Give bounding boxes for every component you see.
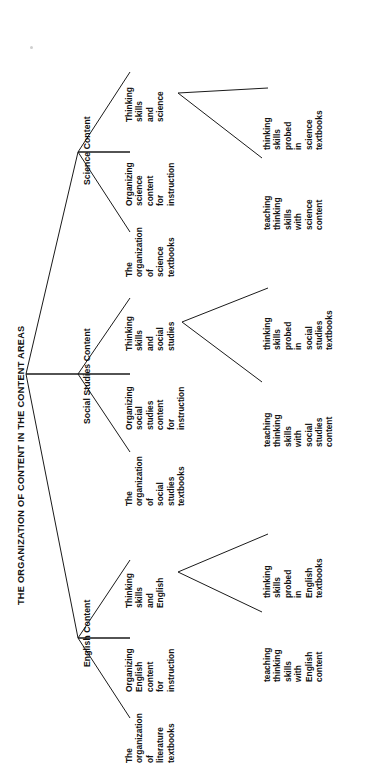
node-line: teaching [262, 437, 272, 447]
node-science-organizing-content[interactable]: Organizing science content for instructi… [134, 196, 186, 206]
node-line: thinking [262, 588, 272, 598]
node-line: instruction [166, 682, 176, 692]
node-line: in [293, 140, 303, 150]
link-social-teaching [182, 322, 262, 382]
node-line: textbooks [166, 753, 176, 763]
node-line: textbooks [166, 267, 176, 277]
node-line: English [155, 598, 165, 608]
node-social-studies-content[interactable]: Social Studies Content [82, 328, 92, 424]
node-line: of [145, 496, 155, 506]
node-line: textbooks [176, 496, 186, 506]
node-line: thinking [262, 340, 272, 350]
link-social-probed [182, 288, 268, 322]
node-line: thinking [272, 437, 282, 447]
node-line: science [304, 140, 314, 150]
node-line: thinking [272, 220, 282, 230]
node-line: organization [134, 753, 144, 763]
node-line: skills [134, 598, 144, 608]
node-science-skills-probed[interactable]: thinking skills probed in science textbo… [272, 140, 334, 150]
node-line: content [314, 672, 324, 682]
node-line: content [145, 682, 155, 692]
node-line: Thinking [124, 598, 134, 608]
node-line: social [304, 437, 314, 447]
node-line: with [293, 220, 303, 230]
node-line: studies [166, 496, 176, 506]
node-line: science [155, 267, 165, 277]
node-science-textbook-organization[interactable]: The organization of science textbooks [134, 267, 186, 277]
link-root-english [26, 374, 78, 638]
diagram-canvas: THE ORGANIZATION OF CONTENT IN THE CONTE… [0, 0, 376, 781]
node-line: studies [166, 341, 176, 351]
node-line: and [145, 598, 155, 608]
node-line: content [155, 420, 165, 430]
node-line: skills [283, 437, 293, 447]
node-line: of [145, 267, 155, 277]
node-line: in [293, 588, 303, 598]
node-line: skills [283, 220, 293, 230]
node-social-thinking-skills[interactable]: Thinking skills and social studies [134, 341, 186, 351]
node-line: with [293, 437, 303, 447]
node-line: for [155, 196, 165, 206]
node-line: Organizing [124, 682, 134, 692]
node-line: skills [283, 672, 293, 682]
node-line: organization [134, 267, 144, 277]
node-english-textbook-organization[interactable]: The organization of literature textbooks [134, 753, 186, 763]
node-line: of [145, 753, 155, 763]
node-english-content[interactable]: English Content [82, 600, 92, 667]
node-line: content [314, 220, 324, 230]
node-line: skills [134, 341, 144, 351]
node-line: The [124, 496, 134, 506]
node-line: in [293, 340, 303, 350]
node-line: skills [272, 588, 282, 598]
node-line: and [145, 112, 155, 122]
node-line: teaching [262, 220, 272, 230]
node-line: studies [314, 437, 324, 447]
node-line: skills [134, 112, 144, 122]
node-science-content[interactable]: Science Content [82, 116, 92, 185]
link-science-probed [178, 88, 268, 93]
node-line: textbooks [324, 340, 334, 350]
node-social-textbook-organization[interactable]: The organization of social studies textb… [134, 496, 196, 506]
node-line: instruction [176, 420, 186, 430]
scan-artifact-speck [30, 46, 33, 49]
link-english-teaching [178, 572, 262, 612]
node-line: social [155, 341, 165, 351]
node-line: The [124, 753, 134, 763]
node-line: social [134, 420, 144, 430]
node-science-teaching-skills[interactable]: teaching thinking skills with science co… [272, 220, 334, 230]
node-line: textbooks [314, 588, 324, 598]
node-line: teaching [262, 672, 272, 682]
node-line: social [304, 340, 314, 350]
node-line: social [155, 496, 165, 506]
node-line: instruction [166, 196, 176, 206]
node-english-organizing-content[interactable]: Organizing English content for instructi… [134, 682, 186, 692]
node-line: with [293, 672, 303, 682]
node-line: science [155, 112, 165, 122]
node-line: The [124, 267, 134, 277]
node-line: organization [134, 496, 144, 506]
node-line: studies [145, 420, 155, 430]
diagram-title: THE ORGANIZATION OF CONTENT IN THE CONTE… [16, 326, 26, 605]
node-social-organizing-content[interactable]: Organizing social studies content for in… [134, 420, 196, 430]
node-social-teaching-skills[interactable]: teaching thinking skills with social stu… [272, 437, 345, 447]
node-line: Organizing [124, 196, 134, 206]
node-line: for [166, 420, 176, 430]
node-line: Thinking [124, 341, 134, 351]
node-line: Thinking [124, 112, 134, 122]
link-root-science [26, 152, 78, 374]
node-line: probed [283, 140, 293, 150]
node-social-skills-probed[interactable]: thinking skills probed in social studies… [272, 340, 345, 350]
node-line: probed [283, 340, 293, 350]
node-line: content [145, 196, 155, 206]
node-line: thinking [272, 672, 282, 682]
node-english-teaching-skills[interactable]: teaching thinking skills with English co… [272, 672, 334, 682]
node-line: literature [155, 753, 165, 763]
node-english-skills-probed[interactable]: thinking skills probed in English textbo… [272, 588, 334, 598]
node-english-thinking-skills[interactable]: Thinking skills and English [134, 598, 176, 608]
node-science-thinking-skills[interactable]: Thinking skills and science [134, 112, 176, 122]
node-line: probed [283, 588, 293, 598]
link-english-probed [178, 534, 268, 572]
node-line: science [134, 196, 144, 206]
node-line: studies [314, 340, 324, 350]
node-line: for [155, 682, 165, 692]
